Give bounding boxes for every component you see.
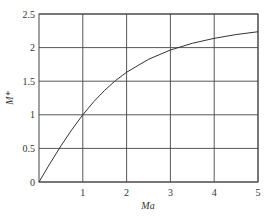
y-axis-label: M* — [4, 91, 15, 105]
y-tick-label: 0 — [30, 177, 35, 188]
x-tick-label: 2 — [124, 187, 129, 198]
x-axis-label: Ma — [140, 200, 154, 211]
y-tick-label: 0.5 — [23, 143, 36, 154]
x-tick-label: 1 — [80, 187, 85, 198]
data-line-mstar — [39, 32, 258, 182]
y-tick-label: 1 — [30, 109, 35, 120]
plot-frame — [39, 14, 258, 182]
x-axis-ticks: 12345 — [80, 187, 260, 198]
y-tick-label: 1.5 — [23, 76, 36, 87]
x-tick-label: 5 — [256, 187, 261, 198]
y-axis-ticks: 00.511.522.5 — [23, 9, 36, 188]
x-tick-label: 3 — [168, 187, 173, 198]
x-tick-label: 4 — [212, 187, 217, 198]
y-tick-label: 2.5 — [23, 9, 36, 20]
y-tick-label: 2 — [30, 42, 35, 53]
grid-lines — [39, 14, 258, 182]
chart: 00.511.522.5 12345 Ma M* — [0, 0, 269, 217]
